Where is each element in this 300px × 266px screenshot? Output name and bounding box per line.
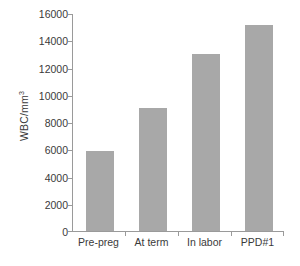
bar bbox=[192, 54, 220, 231]
y-axis-tick-label: 2000 bbox=[45, 199, 68, 211]
x-axis-tick-label: At term bbox=[135, 236, 169, 248]
y-axis-tick-label: 0 bbox=[62, 226, 68, 238]
bar bbox=[86, 151, 114, 231]
y-axis-tick-mark bbox=[68, 69, 72, 70]
y-axis-tick-label: 16000 bbox=[39, 8, 68, 20]
x-axis-tick-label: PPD#1 bbox=[241, 236, 274, 248]
y-axis-tick-label: 6000 bbox=[45, 144, 68, 156]
y-axis-tick-mark bbox=[68, 150, 72, 151]
y-axis-tick-label: 14000 bbox=[39, 35, 68, 47]
x-axis-tick-label: Pre-preg bbox=[78, 236, 119, 248]
y-axis-tick-mark bbox=[68, 96, 72, 97]
y-axis-tick-mark bbox=[68, 41, 72, 42]
y-axis-tick-label: 4000 bbox=[45, 172, 68, 184]
bar-chart: WBC/mm3 02000400060008000100001200014000… bbox=[0, 0, 300, 266]
x-axis-tick-label: In labor bbox=[187, 236, 222, 248]
y-axis-tick-label: 10000 bbox=[39, 90, 68, 102]
y-axis-tick-mark bbox=[68, 231, 72, 232]
y-axis-tick-labels: 0200040006000800010000120001400016000 bbox=[24, 14, 68, 232]
bar bbox=[245, 25, 273, 231]
y-axis-tick-label: 12000 bbox=[39, 63, 68, 75]
y-axis-tick-mark bbox=[68, 205, 72, 206]
bars-layer bbox=[73, 14, 284, 231]
bar bbox=[139, 108, 167, 231]
plot-area bbox=[72, 14, 284, 232]
y-axis-tick-mark bbox=[68, 14, 72, 15]
y-axis-tick-mark bbox=[68, 178, 72, 179]
x-axis-tick-labels: Pre-pregAt termIn laborPPD#1 bbox=[72, 236, 284, 256]
y-axis-tick-label: 8000 bbox=[45, 117, 68, 129]
y-axis-tick-mark bbox=[68, 123, 72, 124]
